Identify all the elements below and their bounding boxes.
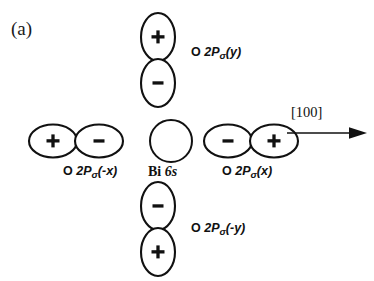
orbital-left-element: O [63, 164, 73, 178]
orbital-top-element: O [191, 45, 201, 59]
orbital-right-element: O [222, 164, 232, 178]
orbital-bottom-element: O [191, 221, 201, 235]
orbital-bottom-o2p-sigma-minus-y [132, 181, 184, 277]
orbital-right-inner-sign-minus-icon [223, 139, 234, 142]
right-arrow-icon [287, 125, 369, 141]
direction-indicator: [100] [287, 105, 369, 141]
panel-label: (a) [11, 19, 32, 38]
orbital-top-axis: (y) [226, 45, 241, 59]
direction-label: [100] [291, 105, 369, 120]
orbital-top-label: O 2Pσ(y) [191, 46, 241, 61]
orbital-left-label: O 2Pσ(-x) [63, 165, 117, 180]
orbital-bottom-term: 2P [204, 221, 219, 235]
orbital-left-term: 2P [76, 164, 91, 178]
orbital-right-o2p-sigma-x [203, 118, 299, 164]
orbital-right-label: O 2Pσ(x) [222, 165, 272, 180]
center-element-symbol: Bi [148, 164, 161, 179]
center-bi-6s-circle [150, 120, 192, 162]
orbital-right-term: 2P [235, 164, 250, 178]
orbital-bottom-upper-sign-minus-icon [153, 204, 164, 207]
center-bi-6s-label: Bi 6s [148, 165, 177, 179]
orbital-left-inner-sign-minus-icon [94, 139, 105, 142]
orbital-diagram-figure: (a) O 2Pσ(y) [0, 0, 374, 281]
orbital-top-o2p-sigma-y [132, 12, 184, 108]
orbital-left-o2p-sigma-minus-x [28, 118, 124, 164]
orbital-top-term: 2P [204, 45, 219, 59]
orbital-bottom-axis: (-y) [226, 221, 245, 235]
orbital-top-lower-sign-minus-icon [153, 81, 164, 84]
orbital-left-axis: (-x) [98, 164, 117, 178]
orbital-bottom-label: O 2Pσ(-y) [191, 222, 245, 237]
center-shell: 6s [165, 164, 177, 179]
orbital-right-axis: (x) [257, 164, 272, 178]
center-bi-6s-orbital [146, 117, 196, 167]
